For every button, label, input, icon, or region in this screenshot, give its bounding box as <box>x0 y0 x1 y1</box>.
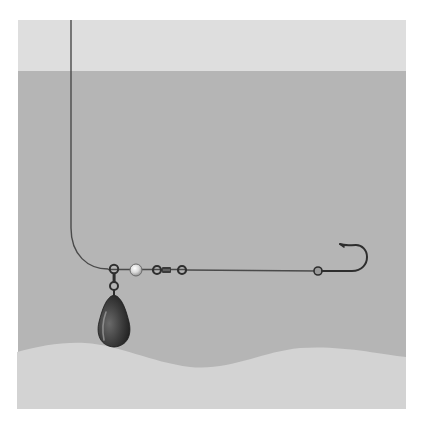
rig-illustration <box>0 0 427 430</box>
sky-band <box>18 20 406 72</box>
sinker-eye <box>113 290 115 295</box>
knot-icon <box>314 267 322 275</box>
fishing-rig-diagram: Fishing rig diagram: sliding sinker rig … <box>0 0 427 430</box>
bead-icon <box>130 264 142 276</box>
water-area <box>18 71 406 371</box>
snap-connector <box>113 274 116 282</box>
